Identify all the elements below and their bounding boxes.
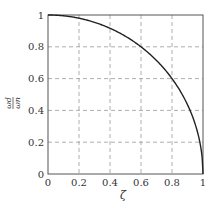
y-axis-tick-labels: 00.20.40.60.81 bbox=[28, 10, 44, 180]
x-tick-label: 0.8 bbox=[164, 177, 180, 188]
y-tick-label: 0.6 bbox=[28, 73, 44, 84]
y-tick-label: 0.8 bbox=[28, 41, 44, 52]
y-tick-label: 1 bbox=[38, 10, 44, 21]
x-axis-tick-labels: 00.20.40.60.81 bbox=[45, 177, 206, 188]
y-tick-label: 0.2 bbox=[28, 137, 44, 148]
svg-text:ωd: ωd bbox=[4, 97, 13, 109]
x-tick-label: 0.2 bbox=[71, 177, 87, 188]
grid-lines bbox=[48, 15, 203, 174]
x-axis-label: ζ bbox=[120, 189, 127, 202]
y-axis-label: ωd ωn bbox=[4, 97, 22, 109]
y-tick-label: 0 bbox=[38, 169, 44, 180]
x-tick-label: 1 bbox=[200, 177, 206, 188]
x-tick-label: 0.6 bbox=[133, 177, 149, 188]
x-tick-label: 0.4 bbox=[102, 177, 118, 188]
y-tick-label: 0.4 bbox=[28, 105, 44, 116]
x-tick-label: 0 bbox=[45, 177, 51, 188]
svg-text:ωn: ωn bbox=[13, 97, 22, 109]
damped-frequency-chart: 00.20.40.60.81 00.20.40.60.81 ζ ωd ωn bbox=[0, 0, 217, 208]
data-series-curve bbox=[48, 15, 203, 174]
plot-area-frame bbox=[48, 15, 203, 174]
